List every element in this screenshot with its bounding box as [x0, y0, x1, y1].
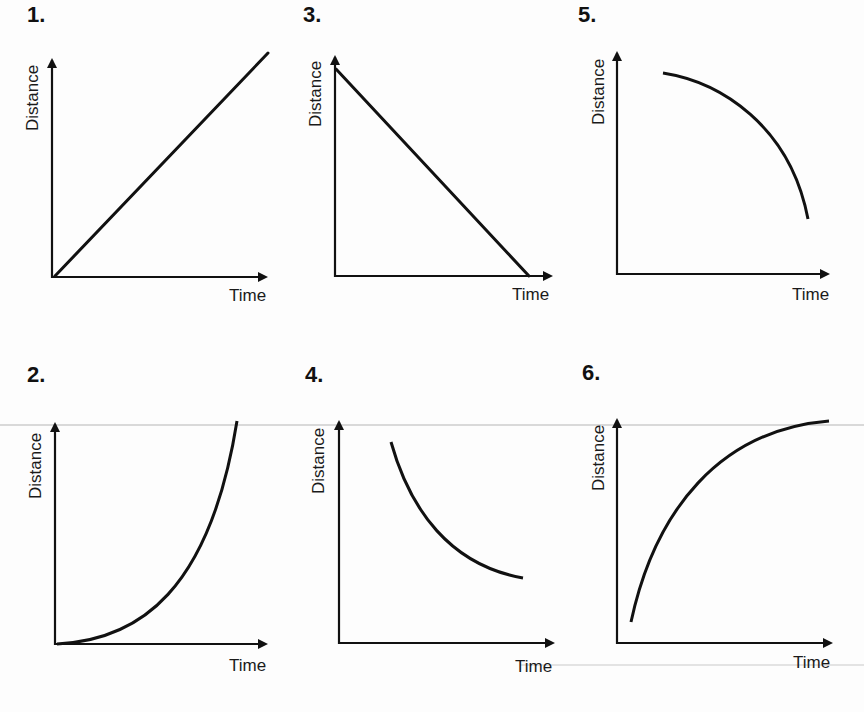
x-axis-label: Time — [792, 285, 829, 304]
y-axis-label: Distance — [309, 428, 328, 494]
panel-5-chart: Distance Time — [589, 53, 829, 304]
distance-time-curve — [391, 442, 523, 578]
y-axis-label: Distance — [26, 433, 45, 499]
y-axis-label: Distance — [23, 65, 42, 131]
distance-time-curve — [631, 421, 829, 622]
distance-time-graphs-figure: 1. 2. 3. 4. 5. 6. Distance Time Distance… — [0, 0, 864, 712]
x-axis-label: Time — [229, 656, 266, 675]
panel-1-chart: Distance Time — [23, 53, 268, 305]
panel-4-chart: Distance Time — [309, 422, 553, 676]
distance-time-curve — [663, 73, 808, 219]
panel-3-chart: Distance Time — [306, 57, 551, 304]
panel-2-chart: Distance Time — [26, 421, 266, 675]
y-axis-label: Distance — [589, 59, 608, 125]
graphs-canvas: Distance Time Distance Time Distance Tim… — [0, 0, 864, 712]
distance-time-curve — [57, 421, 237, 644]
panel-6-chart: Distance Time — [589, 420, 831, 672]
x-axis-label: Time — [512, 285, 549, 304]
x-axis-label: Time — [793, 653, 830, 672]
x-axis-label: Time — [229, 286, 266, 305]
y-axis-label: Distance — [306, 61, 325, 127]
x-axis-label: Time — [515, 657, 552, 676]
distance-time-line — [336, 69, 529, 276]
distance-time-line — [55, 53, 268, 276]
y-axis-label: Distance — [589, 425, 608, 491]
